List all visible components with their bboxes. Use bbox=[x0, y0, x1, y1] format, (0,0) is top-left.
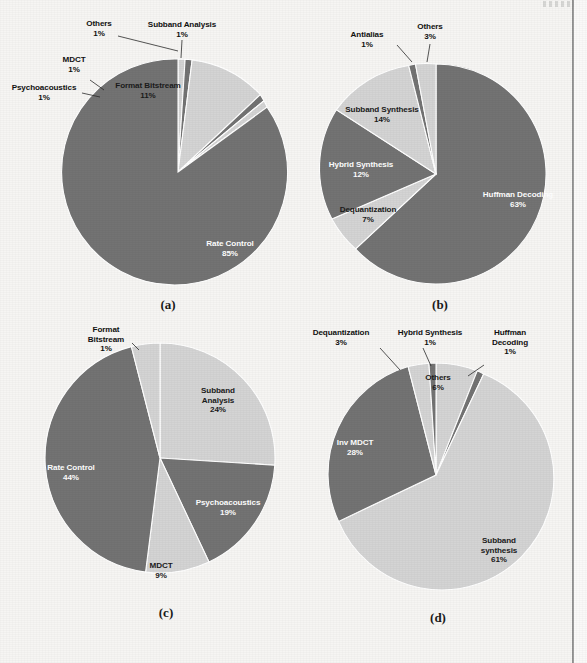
label-d-huffman-decoding: Huffman Decoding 1% bbox=[480, 328, 540, 357]
label-d-others-text: Others bbox=[416, 373, 460, 383]
pie-b-leader-lines bbox=[397, 44, 430, 62]
label-b-subband-synthesis-text: Subband Synthesis bbox=[336, 105, 428, 115]
label-d-inv-mdct: Inv MDCT 28% bbox=[326, 438, 384, 457]
label-b-antialias: Antialias 1% bbox=[341, 30, 393, 49]
label-c-psychoacoustics-value: 19% bbox=[188, 508, 268, 518]
label-d-hybrid-synthesis-text: Hybrid Synthesis bbox=[386, 328, 474, 338]
label-a-subband-analysis-value: 1% bbox=[137, 30, 227, 40]
label-b-dequantization-value: 7% bbox=[328, 215, 408, 225]
pie-chart-b: Antialias 1% Others 3% Subband Synthesis… bbox=[290, 0, 580, 300]
label-b-huffman-decoding-text: Huffman Decoding bbox=[472, 190, 564, 200]
label-c-format-bitstream: Format Bitstream 1% bbox=[78, 325, 134, 354]
label-d-subband-synthesis: Subband synthesis 61% bbox=[468, 536, 530, 565]
leader-b-antialias bbox=[397, 45, 412, 62]
caption-b: (b) bbox=[410, 297, 470, 313]
label-d-huffman-decoding-line2: Decoding bbox=[480, 338, 540, 348]
label-a-format-bitstream-value: 11% bbox=[105, 91, 191, 101]
label-d-subband-synthesis-line2: synthesis bbox=[468, 546, 530, 556]
label-b-antialias-text: Antialias bbox=[341, 30, 393, 40]
label-c-mdct: MDCT 9% bbox=[141, 561, 181, 580]
pie-c-slices bbox=[45, 343, 275, 573]
label-a-mdct-value: 1% bbox=[56, 65, 92, 75]
label-a-psychoacoustics-value: 1% bbox=[7, 93, 81, 103]
label-a-format-bitstream: Format Bitstream 11% bbox=[105, 81, 191, 100]
label-a-format-bitstream-text: Format Bitstream bbox=[105, 81, 191, 91]
caption-d: (d) bbox=[408, 610, 468, 626]
label-a-others-text: Others bbox=[76, 19, 122, 29]
label-c-psychoacoustics: Psychoacoustics 19% bbox=[188, 498, 268, 517]
label-b-subband-synthesis-value: 14% bbox=[336, 115, 428, 125]
label-a-mdct-text: MDCT bbox=[56, 55, 92, 65]
label-b-antialias-value: 1% bbox=[341, 40, 393, 50]
label-c-subband-analysis: Subband Analysis 24% bbox=[185, 386, 251, 415]
label-a-psychoacoustics: Psychoacoustics 1% bbox=[7, 83, 81, 102]
label-d-hybrid-synthesis-value: 1% bbox=[386, 338, 474, 348]
leader-d-dequantization bbox=[380, 348, 400, 370]
label-a-subband-analysis: Subband Analysis 1% bbox=[137, 20, 227, 39]
label-c-format-bitstream-value: 1% bbox=[78, 344, 134, 354]
pie-chart-c: Format Bitstream 1% Subband Analysis 24%… bbox=[0, 318, 300, 618]
label-b-others-value: 3% bbox=[408, 32, 452, 42]
label-d-inv-mdct-value: 28% bbox=[326, 448, 384, 458]
pie-chart-a: Others 1% Subband Analysis 1% MDCT 1% Ps… bbox=[0, 0, 300, 300]
label-b-huffman-decoding: Huffman Decoding 63% bbox=[472, 190, 564, 209]
label-c-rate-control: Rate Control 44% bbox=[37, 463, 105, 482]
label-b-dequantization: Dequantization 7% bbox=[328, 205, 408, 224]
label-d-huffman-decoding-value: 1% bbox=[480, 347, 540, 357]
pie-b-svg bbox=[290, 0, 580, 300]
label-a-rate-control: Rate Control 85% bbox=[196, 239, 264, 258]
pie-d-svg bbox=[290, 318, 580, 618]
label-a-mdct: MDCT 1% bbox=[56, 55, 92, 74]
label-d-others: Others 6% bbox=[416, 373, 460, 392]
label-d-inv-mdct-text: Inv MDCT bbox=[326, 438, 384, 448]
label-b-hybrid-synthesis-value: 12% bbox=[318, 170, 404, 180]
label-b-huffman-decoding-value: 63% bbox=[472, 200, 564, 210]
label-c-psychoacoustics-text: Psychoacoustics bbox=[188, 498, 268, 508]
label-d-dequantization: Dequantization 3% bbox=[298, 328, 384, 347]
label-d-hybrid-synthesis: Hybrid Synthesis 1% bbox=[386, 328, 474, 347]
label-c-subband-analysis-line2: Analysis bbox=[185, 396, 251, 406]
caption-c: (c) bbox=[136, 605, 196, 621]
label-a-psychoacoustics-text: Psychoacoustics bbox=[7, 83, 81, 93]
label-c-format-bitstream-line2: Bitstream bbox=[78, 335, 134, 345]
label-d-dequantization-value: 3% bbox=[298, 338, 384, 348]
label-b-others-text: Others bbox=[408, 22, 452, 32]
label-c-format-bitstream-line1: Format bbox=[78, 325, 134, 335]
label-c-rate-control-text: Rate Control bbox=[37, 463, 105, 473]
label-a-rate-control-text: Rate Control bbox=[196, 239, 264, 249]
label-b-subband-synthesis: Subband Synthesis 14% bbox=[336, 105, 428, 124]
label-c-mdct-value: 9% bbox=[141, 571, 181, 581]
label-a-others-value: 1% bbox=[76, 29, 122, 39]
label-c-subband-analysis-value: 24% bbox=[185, 405, 251, 415]
label-a-others: Others 1% bbox=[76, 19, 122, 38]
label-c-subband-analysis-line1: Subband bbox=[185, 386, 251, 396]
label-d-subband-synthesis-value: 61% bbox=[468, 555, 530, 565]
figure-page: Others 1% Subband Analysis 1% MDCT 1% Ps… bbox=[0, 0, 587, 663]
leader-b-others bbox=[427, 44, 430, 62]
pie-chart-d: Dequantization 3% Hybrid Synthesis 1% Hu… bbox=[290, 318, 580, 618]
label-c-rate-control-value: 44% bbox=[37, 473, 105, 483]
label-b-dequantization-text: Dequantization bbox=[328, 205, 408, 215]
label-b-hybrid-synthesis: Hybrid Synthesis 12% bbox=[318, 160, 404, 179]
label-b-others: Others 3% bbox=[408, 22, 452, 41]
label-c-mdct-text: MDCT bbox=[141, 561, 181, 571]
label-d-dequantization-text: Dequantization bbox=[298, 328, 384, 338]
label-a-rate-control-value: 85% bbox=[196, 249, 264, 259]
label-d-others-value: 6% bbox=[416, 383, 460, 393]
label-d-subband-synthesis-line1: Subband bbox=[468, 536, 530, 546]
label-d-huffman-decoding-line1: Huffman bbox=[480, 328, 540, 338]
leader-a-subband-analysis bbox=[181, 40, 182, 58]
label-a-subband-analysis-text: Subband Analysis bbox=[137, 20, 227, 30]
label-b-hybrid-synthesis-text: Hybrid Synthesis bbox=[318, 160, 404, 170]
caption-a: (a) bbox=[138, 297, 198, 313]
